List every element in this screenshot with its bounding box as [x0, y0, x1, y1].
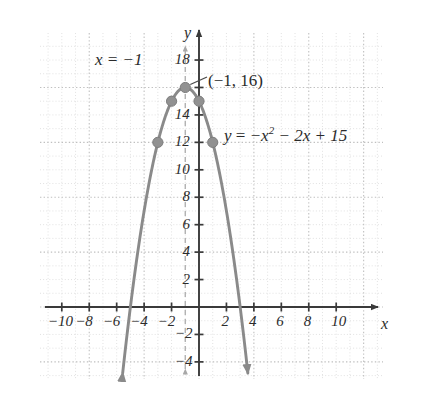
parabola-plot — [0, 0, 425, 396]
x-tick-label: 2 — [221, 314, 229, 329]
axis-of-symmetry-label: x = −1 — [95, 51, 143, 68]
y-tick-label: 8 — [182, 189, 190, 204]
graph-figure: x = −1 (−1, 16) y = −x2 − 2x + 15 x y −1… — [0, 0, 425, 396]
y-tick-label: 2 — [182, 272, 190, 287]
x-tick-label: 6 — [276, 314, 284, 329]
y-tick-label: 6 — [182, 217, 190, 232]
x-tick-label: 4 — [249, 314, 257, 329]
y-tick-label: 14 — [175, 107, 190, 122]
x-tick-label: 10 — [331, 314, 346, 329]
equation-tail: − 2x + 15 — [278, 126, 347, 145]
y-tick-label: 10 — [175, 162, 190, 177]
x-tick-label: −10 — [48, 314, 73, 329]
x-tick-label: −4 — [130, 314, 148, 329]
y-tick-label: −2 — [175, 326, 193, 341]
x-tick-label: −2 — [158, 314, 176, 329]
equation-y: y — [224, 126, 232, 145]
y-tick-label: −4 — [175, 354, 193, 369]
x-tick-label: 8 — [304, 314, 312, 329]
vertex-coordinate-label: (−1, 16) — [208, 72, 263, 89]
equation-label: y = −x2 − 2x + 15 — [224, 125, 347, 144]
y-axis-label: y — [184, 25, 191, 41]
x-tick-label: −8 — [75, 314, 93, 329]
y-tick-label: 18 — [175, 52, 190, 67]
equation-equals: = — [232, 126, 250, 145]
x-tick-label: −6 — [103, 314, 121, 329]
y-tick-label: 12 — [175, 134, 190, 149]
x-axis-label: x — [381, 316, 388, 332]
y-tick-label: 4 — [182, 244, 190, 259]
equation-neg-x: −x — [250, 126, 269, 145]
